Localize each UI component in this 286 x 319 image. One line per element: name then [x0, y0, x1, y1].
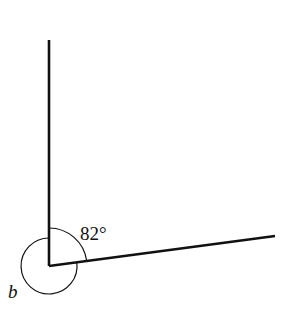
angle-diagram: 82° b [0, 0, 286, 319]
reflex-angle-label: b [8, 281, 18, 302]
interior-angle-label: 82° [80, 223, 107, 244]
